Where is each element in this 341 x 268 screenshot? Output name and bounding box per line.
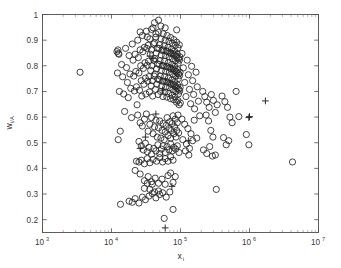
data-point-circle [200, 147, 206, 153]
data-point-circle [162, 181, 168, 187]
x-tick-label-exponent: 6 [253, 236, 256, 242]
data-point-circle [189, 63, 195, 69]
data-point-circle [205, 118, 211, 124]
data-point-plus [262, 98, 269, 105]
data-point-circle [182, 79, 188, 85]
data-point-circle [212, 109, 218, 115]
data-point-circle [180, 137, 186, 143]
data-point-circle [136, 200, 142, 206]
data-point-circle [120, 74, 126, 80]
data-point-circle [122, 108, 128, 114]
data-point-circle [246, 142, 252, 148]
x-tick-label-exponent: 5 [184, 236, 187, 242]
x-tick-label: 10 [173, 238, 183, 247]
data-point-circle [214, 102, 220, 108]
y-tick-label: 0.8 [27, 62, 39, 71]
data-point-circle [155, 188, 161, 194]
data-point-circle [208, 127, 214, 133]
figure-container: 1031041051061070.20.30.40.50.60.70.80.91… [0, 0, 341, 268]
data-point-circle [236, 113, 242, 119]
x-axis-label: xi [178, 251, 184, 263]
data-point-circle [207, 143, 213, 149]
data-point-circle [210, 134, 216, 140]
data-point-circle [151, 124, 157, 130]
data-point-circle [206, 104, 212, 110]
data-point-circle [182, 121, 188, 127]
data-point-circle [208, 91, 214, 97]
data-point-circle [243, 131, 249, 137]
data-point-circle [190, 78, 196, 84]
x-tick-label-exponent: 7 [322, 236, 325, 242]
y-axis-label-subscript: i/A [9, 116, 15, 123]
data-point-circle [191, 91, 197, 97]
x-tick-label-exponent: 3 [46, 236, 49, 242]
data-point-plus [142, 134, 149, 141]
data-point-circle [155, 180, 161, 186]
x-tick-label: 10 [242, 238, 252, 247]
x-tick-label: 10 [311, 238, 321, 247]
data-point-circle [191, 117, 197, 123]
data-point-circle [122, 45, 128, 51]
y-tick-label: 0.3 [27, 190, 39, 199]
data-point-circle [134, 102, 140, 108]
y-tick-label: 0.2 [27, 216, 39, 225]
data-point-circle [204, 150, 210, 156]
data-point-circle [137, 29, 143, 35]
data-point-circle [77, 69, 83, 75]
data-point-circle [124, 79, 130, 85]
data-point-circle [150, 131, 156, 137]
y-tick-label: 0.5 [27, 139, 39, 148]
data-point-circle [135, 112, 141, 118]
data-point-circle [177, 100, 183, 106]
scatter-plot: 1031041051061070.20.30.40.50.60.70.80.91… [0, 0, 341, 268]
data-point-circle [186, 86, 192, 92]
data-point-circle [165, 172, 171, 178]
data-point-circle [184, 57, 190, 63]
data-point-circle [185, 72, 191, 78]
x-axis-label-subscript: i [183, 256, 184, 262]
data-point-circle [127, 71, 133, 77]
y-tick-label: 1 [33, 11, 38, 20]
y-tick-label: 0.9 [27, 36, 39, 45]
data-point-circle [233, 88, 239, 94]
data-point-circle [170, 179, 176, 185]
y-tick-label: 0.7 [27, 87, 39, 96]
data-point-circle [197, 113, 203, 119]
data-point-circle [125, 95, 131, 101]
data-point-circle [115, 47, 121, 53]
data-point-circle [123, 64, 129, 70]
data-point-circle [137, 171, 143, 177]
y-tick-label: 0.6 [27, 113, 39, 122]
data-point-circle [174, 27, 180, 33]
y-tick-label: 0.4 [27, 164, 39, 173]
data-point-circle [289, 159, 295, 165]
data-point-plus [153, 111, 160, 118]
x-tick-label: 10 [35, 238, 45, 247]
data-point-circle [186, 152, 192, 158]
x-tick-label-exponent: 4 [115, 236, 118, 242]
data-point-circle [224, 104, 230, 110]
data-point-plus [245, 114, 252, 121]
marker-layer [77, 17, 296, 231]
data-point-plus [246, 113, 253, 120]
data-point-circle [153, 195, 159, 201]
data-point-circle [219, 93, 225, 99]
data-point-circle [193, 69, 199, 75]
data-point-circle [129, 41, 135, 47]
data-point-circle [161, 215, 167, 221]
data-point-circle [117, 201, 123, 207]
data-point-circle [180, 65, 186, 71]
data-point-circle [176, 149, 182, 155]
data-point-circle [167, 189, 173, 195]
y-axis-label: wi/A [4, 116, 15, 130]
data-point-circle [115, 137, 121, 143]
data-point-circle [229, 120, 235, 126]
data-point-circle [203, 112, 209, 118]
data-point-circle [147, 121, 153, 127]
data-point-circle [213, 186, 219, 192]
data-point-circle [128, 115, 134, 121]
data-point-circle [188, 131, 194, 137]
data-point-circle [154, 134, 160, 140]
data-point-circle [195, 98, 201, 104]
data-point-circle [146, 89, 152, 95]
